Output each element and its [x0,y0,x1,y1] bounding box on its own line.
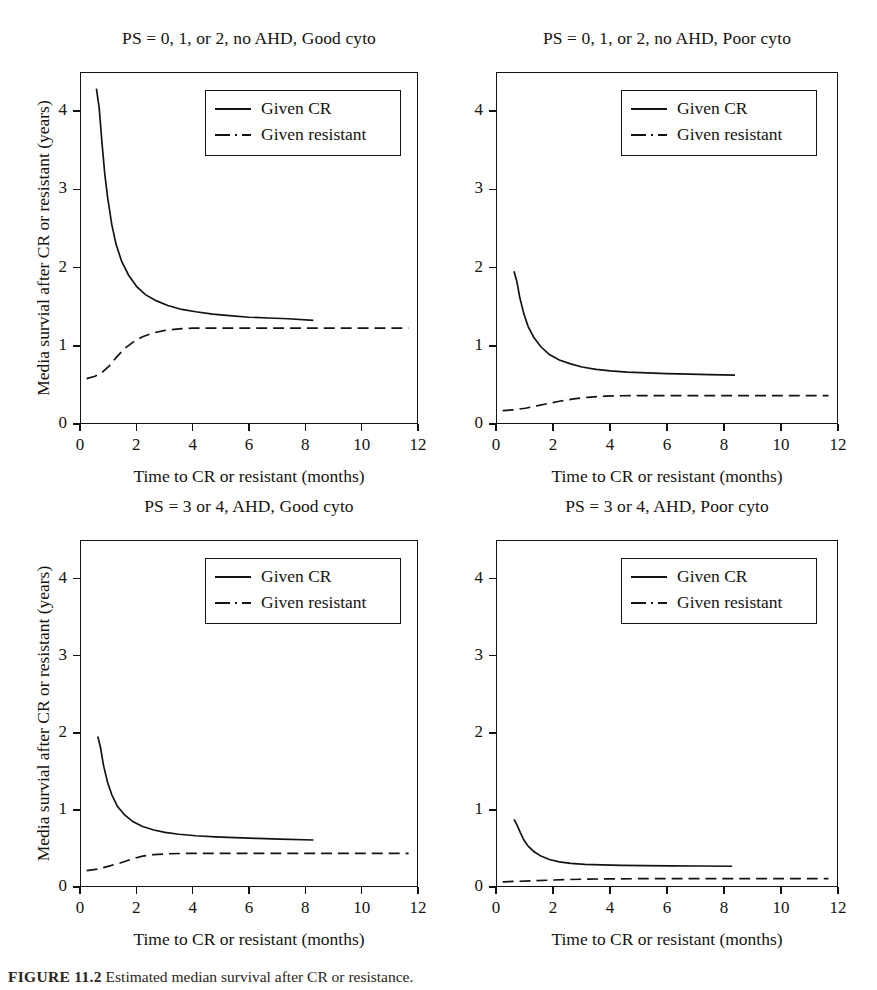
legend-key-given-cr-icon [630,570,668,584]
x-ticklabel-bottom-right-12: 12 [818,898,858,918]
chart-panel-bottom-right: PS = 3 or 4, AHD, Poor cyto0246810120123… [0,0,877,990]
figure-root: PS = 0, 1, or 2, no AHD, Good cyto024681… [0,0,877,990]
x-ticklabel-bottom-right-6: 6 [647,898,687,918]
legend-item-given-cr-bottom-right[interactable]: Given CR [630,564,806,590]
y-ticklabel-bottom-right-0: 0 [457,876,483,896]
legend-key-given-resistant-icon [630,596,668,610]
y-tick-bottom-right-4 [489,578,496,580]
x-ticklabel-bottom-right-10: 10 [761,898,801,918]
x-ticklabel-bottom-right-8: 8 [704,898,744,918]
x-tick-bottom-right-10 [780,887,782,894]
legend-label-given-cr: Given CR [677,568,748,586]
x-tick-bottom-right-12 [837,887,839,894]
x-ticklabel-bottom-right-4: 4 [590,898,630,918]
y-ticklabel-bottom-right-4: 4 [457,568,483,588]
figure-caption-label: FIGURE 11.2 [8,968,102,985]
y-tick-bottom-right-1 [489,809,496,811]
series-given-cr [514,819,732,866]
legend-label-given-resistant: Given resistant [677,594,782,612]
legend-item-given-resistant-bottom-right[interactable]: Given resistant [630,590,806,616]
y-ticklabel-bottom-right-1: 1 [457,799,483,819]
x-axis-label-bottom-right: Time to CR or resistant (months) [496,929,838,950]
figure-caption-text: Estimated median survival after CR or re… [106,968,414,985]
y-ticklabel-bottom-right-3: 3 [457,645,483,665]
x-tick-bottom-right-0 [495,887,497,894]
legend-bottom-right: Given CRGiven resistant [621,558,817,624]
x-tick-bottom-right-4 [609,887,611,894]
y-ticklabel-bottom-right-2: 2 [457,722,483,742]
y-tick-bottom-right-2 [489,732,496,734]
series-given-resistant [503,879,829,882]
x-tick-bottom-right-2 [552,887,554,894]
x-ticklabel-bottom-right-2: 2 [533,898,573,918]
figure-caption: FIGURE 11.2 Estimated median survival af… [8,968,868,990]
x-tick-bottom-right-8 [723,887,725,894]
y-tick-bottom-right-0 [489,886,496,888]
panel-title-bottom-right: PS = 3 or 4, AHD, Poor cyto [496,496,838,517]
y-tick-bottom-right-3 [489,655,496,657]
x-tick-bottom-right-6 [666,887,668,894]
x-ticklabel-bottom-right-0: 0 [476,898,516,918]
